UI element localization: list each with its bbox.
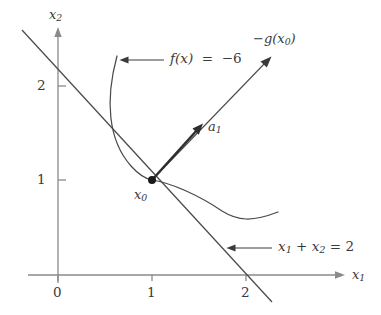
constraint-line [22, 30, 272, 302]
point-x0-marker [148, 176, 156, 184]
x-axis-label: x1 [352, 268, 365, 282]
diagram-canvas [0, 0, 381, 315]
optimization-diagram: x2 x1 0 1 2 1 2 x0 a1 −g(x0) f(x) = −6 x… [0, 0, 381, 315]
x-tick-label-0: 0 [53, 286, 62, 300]
constraint-leader-arrowhead [227, 245, 236, 252]
y-axis-arrowhead [54, 27, 61, 37]
constraint-annotation-label: x1 + x2 = 2 [278, 240, 354, 255]
y-axis-label: x2 [49, 8, 62, 22]
constraint-normal-vector [152, 124, 203, 181]
gradient-vector-label: −g(x0) [253, 32, 296, 46]
constraint-normal-shaft [152, 129, 198, 180]
constraint-leader [227, 245, 273, 252]
constraint-normal-label: a1 [208, 120, 222, 134]
point-x0-label: x0 [134, 188, 147, 202]
objective-leader [120, 57, 165, 64]
x-axis-arrowhead [335, 271, 345, 278]
x-tick-label-2: 2 [241, 286, 250, 300]
y-tick-label-2: 2 [37, 79, 46, 93]
y-tick-label-1: 1 [37, 173, 46, 187]
objective-annotation-label: f(x) = −6 [170, 52, 242, 66]
x-tick-label-1: 1 [147, 286, 156, 300]
objective-leader-arrowhead [120, 57, 129, 64]
